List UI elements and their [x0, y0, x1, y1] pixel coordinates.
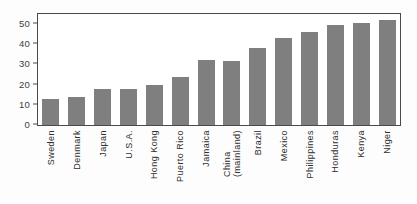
bar[interactable]: [353, 23, 370, 125]
x-axis-label-slot: Brazil: [249, 128, 266, 202]
bar[interactable]: [249, 48, 266, 125]
x-axis-label-slot: Mexico: [275, 128, 292, 202]
x-axis-label-slot: Denmark: [68, 128, 85, 202]
x-axis-label: Kenya: [356, 130, 366, 158]
x-axis-label-slot: U.S.A.: [120, 128, 137, 202]
bar[interactable]: [275, 38, 292, 125]
x-axis-labels: SwedenDenmarkJapanU.S.A.Hong KongPuerto …: [38, 128, 400, 202]
x-axis-label-slot: Kenya: [353, 128, 370, 202]
bar[interactable]: [68, 97, 85, 125]
x-axis-label-line: Denmark: [72, 130, 82, 170]
y-axis: 01020304050: [0, 13, 34, 126]
y-axis-tick-mark: [33, 23, 37, 24]
bar[interactable]: [379, 20, 396, 125]
y-axis-tick-label: 10: [19, 98, 30, 109]
x-axis-label-slot: Hong Kong: [146, 128, 163, 202]
bar[interactable]: [223, 61, 240, 125]
y-axis-tick-label: 20: [19, 78, 30, 89]
bar[interactable]: [327, 25, 344, 125]
bar-chart-figure: 01020304050 SwedenDenmarkJapanU.S.A.Hong…: [0, 0, 417, 204]
bar[interactable]: [120, 89, 137, 125]
bar[interactable]: [146, 85, 163, 125]
bar[interactable]: [42, 99, 59, 125]
x-axis-label-line: Jamaica: [201, 130, 211, 167]
x-axis-label: Niger: [382, 130, 392, 154]
x-axis-label-slot: Niger: [379, 128, 396, 202]
x-axis-label-line: Puerto Rico: [175, 130, 185, 182]
x-axis-label-line: Brazil: [253, 130, 263, 155]
x-axis-label-slot: Japan: [94, 128, 111, 202]
x-axis-label: Japan: [98, 130, 108, 157]
x-axis-label-slot: Philippines: [301, 128, 318, 202]
x-axis-label: Jamaica: [201, 130, 211, 167]
bar[interactable]: [172, 77, 189, 125]
y-axis-tick-label: 0: [25, 119, 30, 130]
y-axis-tick-mark: [33, 43, 37, 44]
x-axis-label-slot: China(mainland): [223, 128, 240, 202]
bar[interactable]: [301, 32, 318, 125]
x-axis-label: U.S.A.: [124, 130, 134, 159]
bars-container: [38, 14, 400, 125]
x-axis-label-slot: Honduras: [327, 128, 344, 202]
x-axis-label-line: Sweden: [46, 130, 56, 165]
x-axis-label: China(mainland): [222, 130, 242, 177]
x-axis-label-line: Hong Kong: [149, 130, 159, 179]
x-axis-label: Mexico: [279, 130, 289, 161]
x-axis-label: Honduras: [330, 130, 340, 173]
x-axis-label-line: Kenya: [356, 130, 366, 158]
x-axis-label-line: Niger: [382, 130, 392, 154]
bar[interactable]: [198, 60, 215, 125]
x-axis-label: Denmark: [72, 130, 82, 170]
x-axis-label: Brazil: [253, 130, 263, 155]
y-axis-tick-label: 50: [19, 18, 30, 29]
y-axis-tick-label: 30: [19, 58, 30, 69]
y-axis-tick-mark: [33, 103, 37, 104]
x-axis-label: Hong Kong: [149, 130, 159, 179]
x-axis-label-slot: Jamaica: [198, 128, 215, 202]
x-axis-label: Puerto Rico: [175, 130, 185, 182]
y-axis-tick-mark: [33, 63, 37, 64]
x-axis-label-line: Japan: [98, 130, 108, 157]
x-axis-label-line: China: [222, 151, 232, 177]
x-axis-label: Sweden: [46, 130, 56, 165]
y-axis-tick-mark: [33, 83, 37, 84]
x-axis-label-line: U.S.A.: [124, 130, 134, 159]
x-axis-label: Philippines: [305, 130, 315, 178]
y-axis-tick-mark: [33, 124, 37, 125]
x-axis-label-slot: Puerto Rico: [172, 128, 189, 202]
x-axis-label-line: Honduras: [330, 130, 340, 173]
y-axis-tick-label: 40: [19, 38, 30, 49]
bar[interactable]: [94, 89, 111, 125]
x-axis-label-line: Philippines: [305, 130, 315, 178]
x-axis-label-line: (mainland): [232, 130, 242, 177]
x-axis-label-line: Mexico: [279, 130, 289, 161]
x-axis-label-slot: Sweden: [42, 128, 59, 202]
